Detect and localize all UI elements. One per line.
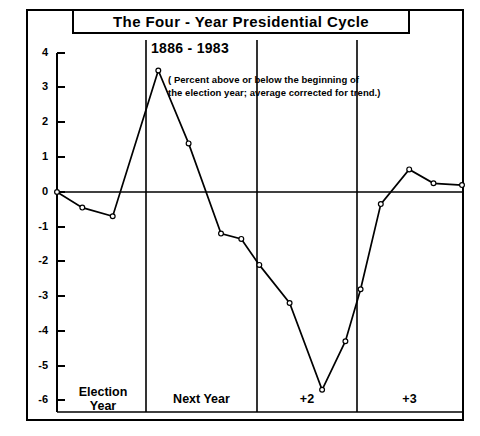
x-category-election-year-line1: Election bbox=[60, 385, 146, 399]
x-category-label-plus2: +2 bbox=[257, 392, 357, 406]
x-category-election-year-line2: Year bbox=[60, 399, 146, 413]
chart-subtitle-line-2: the election year; average corrected for… bbox=[168, 87, 381, 100]
chart-year-range: 1886 - 1983 bbox=[151, 40, 229, 56]
y-tick-label-0: 0 bbox=[26, 186, 48, 197]
x-category-plus3-line1: +3 bbox=[357, 392, 462, 406]
x-category-label-plus3: +3 bbox=[357, 392, 462, 406]
y-tick-label-3: 3 bbox=[26, 81, 48, 92]
chart-plot-svg bbox=[0, 0, 480, 436]
x-category-plus2-line1: +2 bbox=[257, 392, 357, 406]
y-tick-label-neg4: -4 bbox=[26, 325, 48, 336]
data-series-line bbox=[57, 71, 462, 390]
y-tick-label-neg5: -5 bbox=[26, 360, 48, 371]
x-category-next-year-line1: Next Year bbox=[146, 392, 257, 406]
page-title: The Four - Year Presidential Cycle bbox=[113, 14, 369, 29]
data-point-markers bbox=[55, 68, 465, 392]
y-tick-label-4: 4 bbox=[26, 47, 48, 58]
chart-subtitle-line-1: ( Percent above or below the beginning o… bbox=[168, 74, 381, 87]
y-tick-label-neg1: -1 bbox=[26, 221, 48, 232]
y-tick-label-2: 2 bbox=[26, 116, 48, 127]
y-tick-label-neg3: -3 bbox=[26, 290, 48, 301]
chart-root: The Four - Year Presidential Cycle 1886 … bbox=[0, 0, 480, 436]
y-axis-ticks bbox=[57, 53, 65, 400]
y-tick-label-1: 1 bbox=[26, 151, 48, 162]
chart-subtitle: ( Percent above or below the beginning o… bbox=[168, 74, 381, 99]
x-category-label-election-year: Election Year bbox=[60, 385, 146, 413]
chart-title-box: The Four - Year Presidential Cycle bbox=[72, 9, 410, 34]
x-category-label-next-year: Next Year bbox=[146, 392, 257, 406]
y-tick-label-neg6: -6 bbox=[26, 394, 48, 405]
y-tick-label-neg2: -2 bbox=[26, 255, 48, 266]
